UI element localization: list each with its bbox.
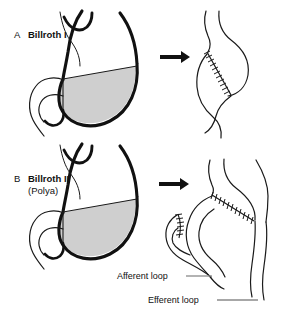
panel-a-title: Billroth I: [28, 29, 67, 40]
postop-b-afferent-limb: [186, 196, 224, 289]
postop-a-right-wall: [219, 11, 248, 96]
postop-b-gastric-left: [209, 160, 214, 195]
suture-hatches-a: [204, 51, 230, 94]
panel-a-letter: A: [14, 29, 21, 40]
anastomosis-suture-a: [207, 52, 231, 95]
resected-segment-b: [59, 199, 136, 256]
figure-container: A Billroth I: [0, 0, 281, 315]
duodenum-distal-a: [45, 110, 64, 125]
suture-hatches-b: [211, 192, 253, 224]
panel-b-letter: B: [14, 173, 20, 184]
postop-a-duodenum-right: [205, 96, 231, 133]
panel-a-group: A Billroth I: [14, 11, 248, 138]
arrow-a: [160, 51, 190, 63]
afferent-loop-label: Afferent loop: [117, 271, 168, 281]
postop-b-gastric-right: [224, 159, 255, 220]
postop-b-loop-inner: [199, 209, 225, 277]
panel-b-preop-stomach: [30, 144, 138, 269]
postop-b-efferent-limb: [251, 221, 256, 297]
efferent-loop-label: Efferent loop: [148, 295, 199, 305]
panel-a-postop: [197, 11, 248, 138]
callout-efferent-loop: Efferent loop: [148, 295, 258, 305]
illustration-svg: A Billroth I: [0, 0, 281, 315]
panel-b-subtitle: (Polya): [28, 185, 58, 196]
resected-segment-a: [59, 66, 136, 123]
postop-a-duodenum-left: [197, 54, 221, 138]
callout-afferent-loop: Afferent loop: [117, 271, 212, 281]
duodenum-distal-b: [45, 243, 64, 258]
panel-b-title: Billroth II: [28, 173, 69, 184]
arrow-b: [159, 178, 189, 190]
postop-b-efferent-limb-2: [263, 222, 267, 300]
postop-b-upper-right-gut: [256, 160, 268, 222]
postop-a-left-wall: [205, 11, 211, 52]
